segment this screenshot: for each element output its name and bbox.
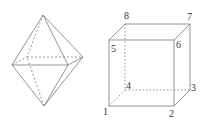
- vertex-label-4: 4: [126, 80, 131, 91]
- vertex-label-7: 7: [187, 11, 192, 22]
- vertex-label-2: 2: [169, 108, 174, 119]
- cube: [109, 24, 190, 106]
- vertex-label-3: 3: [191, 82, 196, 93]
- vertex-label-5: 5: [111, 43, 116, 54]
- vertex-label-8: 8: [124, 10, 129, 21]
- vertex-label-1: 1: [103, 106, 108, 117]
- cube-vertex-labels: 1 2 3 4 5 6 7 8: [103, 10, 196, 119]
- octahedron: [12, 15, 83, 106]
- vertex-label-6: 6: [176, 39, 181, 50]
- diagram-canvas: 1 2 3 4 5 6 7 8: [0, 0, 206, 123]
